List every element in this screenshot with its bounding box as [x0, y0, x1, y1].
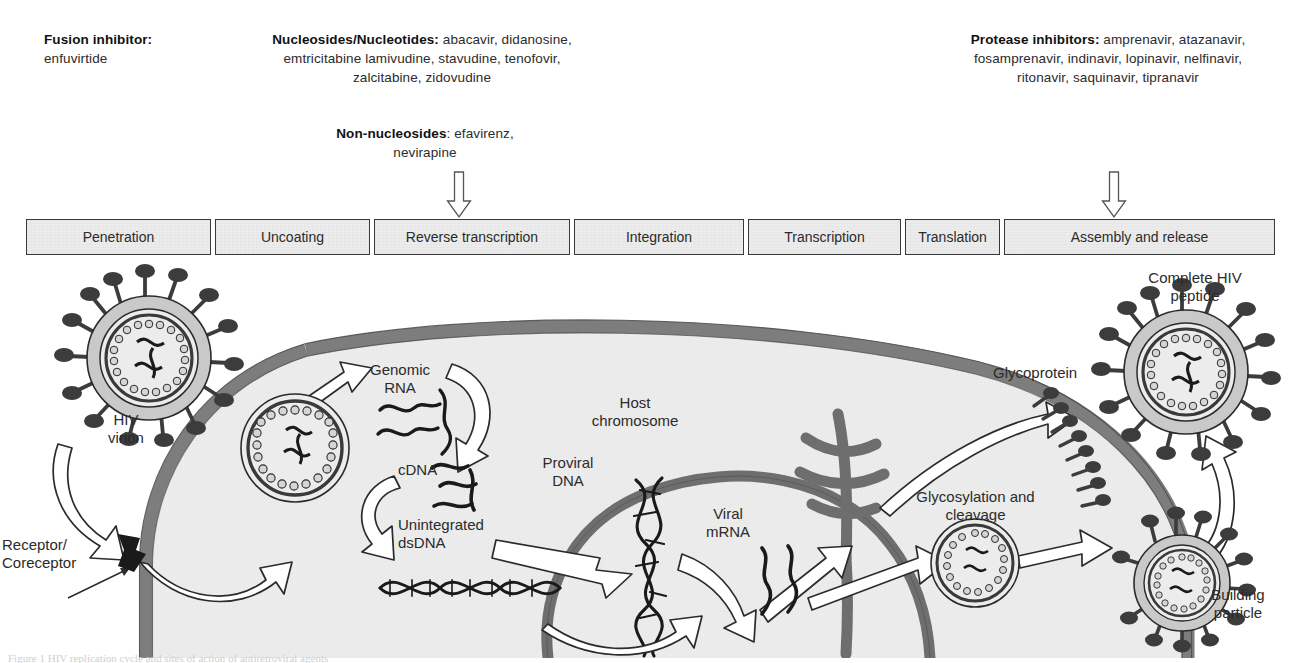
stage-box-penetration[interactable]: Penetration	[26, 219, 211, 255]
arrow-virion-to-receptor	[53, 444, 124, 560]
glycosylated-vesicle	[931, 519, 1019, 607]
drug-class-heading: Non-nucleosides	[336, 126, 446, 141]
down-arrow-assembly-and-release	[1101, 171, 1127, 219]
stage-label: Penetration	[83, 229, 155, 245]
stage-box-translation[interactable]: Translation	[905, 219, 1000, 255]
stage-label: Assembly and release	[1071, 229, 1209, 245]
drug-class-heading: Nucleosides/Nucleotides:	[272, 32, 439, 47]
stage-box-transcription[interactable]: Transcription	[748, 219, 901, 255]
hiv-replication-diagram: HIV virion Receptor/ Coreceptor Genomic …	[0, 258, 1298, 658]
stage-label: Translation	[918, 229, 987, 245]
stage-label: Uncoating	[261, 229, 324, 245]
diagram-canvas	[0, 258, 1298, 658]
drug-class-non-nucleosides: Non-nucleosides: efavirenz, nevirapine	[310, 124, 540, 162]
replication-stage-bar: Penetration Uncoating Reverse transcript…	[26, 219, 1275, 255]
drug-class-heading: Protease inhibitors:	[971, 32, 1100, 47]
stage-box-assembly-and-release[interactable]: Assembly and release	[1004, 219, 1275, 255]
drug-class-fusion-inhibitor: Fusion inhibitor: enfuvirtide	[44, 30, 274, 68]
stage-label: Transcription	[784, 229, 864, 245]
stage-box-uncoating[interactable]: Uncoating	[215, 219, 370, 255]
stage-box-reverse-transcription[interactable]: Reverse transcription	[374, 219, 570, 255]
down-arrow-reverse-transcription	[446, 171, 472, 219]
uncoated-viral-capsid	[241, 394, 349, 502]
drug-class-drugs: enfuvirtide	[44, 51, 107, 66]
drug-class-protease-inhibitors: Protease inhibitors: amprenavir, atazana…	[948, 30, 1268, 87]
drug-class-heading: Fusion inhibitor:	[44, 32, 152, 47]
stage-label: Integration	[626, 229, 692, 245]
leader-line-receptor	[68, 568, 130, 598]
stage-label: Reverse transcription	[406, 229, 538, 245]
figure-caption-sliver: Figure 1 HIV replication cycle and sites…	[0, 652, 1298, 663]
stage-box-integration[interactable]: Integration	[574, 219, 744, 255]
drug-class-nucleosides: Nucleosides/Nucleotides: abacavir, didan…	[252, 30, 592, 87]
